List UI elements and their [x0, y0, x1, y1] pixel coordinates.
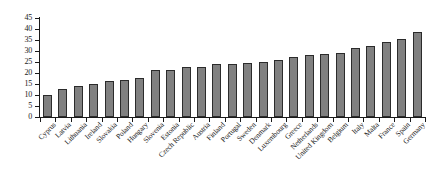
bar	[305, 55, 314, 117]
bar-slot	[317, 18, 332, 117]
bar-slot	[363, 18, 378, 117]
bar	[336, 53, 345, 117]
bar-slot	[102, 18, 117, 117]
bar	[228, 64, 237, 117]
bar-slot	[71, 18, 86, 117]
bar-slot	[40, 18, 55, 117]
bar	[259, 62, 268, 117]
bar-slot	[163, 18, 178, 117]
bar	[289, 57, 298, 118]
y-axis-tick-label: 0	[10, 113, 32, 121]
bar-slot	[179, 18, 194, 117]
y-axis-tick-label: 40	[10, 25, 32, 33]
bar	[182, 67, 191, 117]
bar	[274, 60, 283, 117]
x-axis-baseline	[39, 117, 426, 118]
bar	[151, 70, 160, 117]
y-axis-tick-label: 35	[10, 36, 32, 44]
bar-slot	[117, 18, 132, 117]
bar	[197, 67, 206, 117]
bar-slot	[271, 18, 286, 117]
bar	[397, 39, 406, 117]
bar	[413, 32, 422, 117]
y-axis-tick-label: 15	[10, 80, 32, 88]
bar-slot	[302, 18, 317, 117]
bar	[58, 89, 67, 117]
y-axis-tick-label: 30	[10, 47, 32, 55]
bar	[105, 81, 114, 117]
bar-slot	[86, 18, 101, 117]
bar	[351, 48, 360, 117]
bar-slot	[225, 18, 240, 117]
bar-slot	[348, 18, 363, 117]
bar-slot	[132, 18, 147, 117]
bar	[382, 42, 391, 117]
bar-slot	[394, 18, 409, 117]
bar-slot	[194, 18, 209, 117]
bar-slot	[209, 18, 224, 117]
bar	[120, 80, 129, 117]
bar	[366, 46, 375, 117]
x-axis-tick	[425, 118, 426, 122]
bar	[166, 70, 175, 117]
bar-slot	[148, 18, 163, 117]
bar-slot	[410, 18, 425, 117]
x-axis-labels: CyprusLatviaLithuaniaIrelandSlovakiaPola…	[40, 121, 425, 191]
bar-slot	[379, 18, 394, 117]
bar	[43, 95, 52, 117]
bar	[74, 86, 83, 117]
y-axis-tick-label: 45	[10, 14, 32, 22]
bar-series	[40, 18, 425, 117]
bar-slot	[333, 18, 348, 117]
bar-slot	[240, 18, 255, 117]
bar	[89, 84, 98, 117]
bar-slot	[286, 18, 301, 117]
bar-slot	[256, 18, 271, 117]
bar	[243, 63, 252, 117]
bar	[212, 64, 221, 117]
y-axis-tick-label: 25	[10, 58, 32, 66]
bar-chart: 051015202530354045 CyprusLatviaLithuania…	[0, 0, 431, 191]
bar	[320, 54, 329, 117]
y-axis-tick-label: 10	[10, 91, 32, 99]
y-axis-tick-label: 5	[10, 102, 32, 110]
y-axis-tick-label: 20	[10, 69, 32, 77]
bar	[135, 78, 144, 117]
bar-slot	[55, 18, 70, 117]
